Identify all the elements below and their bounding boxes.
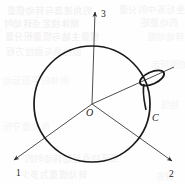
axis-2: 2: [92, 104, 174, 179]
axis-1: 1: [14, 104, 92, 178]
hook-loop-ellipse: [138, 67, 167, 89]
loop-axis: [92, 67, 174, 104]
figure-container: 的角速度与转动惯量上述坐标系中的分量刚体绕定点转动时的动量矩惯量主轴与惯量积分量…: [0, 0, 185, 184]
hook-tail-path: [143, 84, 146, 110]
axis-3: 3: [92, 9, 106, 104]
axis-3-label: 3: [101, 9, 106, 19]
axis-3-line: [92, 12, 95, 104]
origin-label: O: [86, 107, 93, 118]
loop-axis-line: [92, 67, 174, 104]
point-c-label: C: [152, 112, 159, 123]
axis-1-label: 1: [16, 168, 21, 178]
axis-1-line: [14, 104, 92, 160]
physics-diagram: 3 1 2 O C: [0, 0, 185, 184]
axis-2-label: 2: [169, 169, 174, 179]
axis-2-line: [92, 104, 172, 161]
